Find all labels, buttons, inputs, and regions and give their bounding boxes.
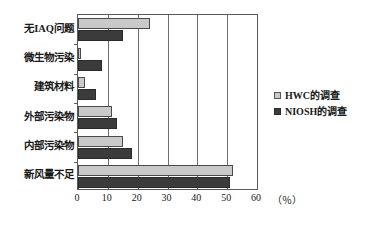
category-label: 建筑材料 — [6, 81, 74, 92]
x-tick-label: 20 — [132, 192, 142, 203]
category-label: 微生物污染 — [6, 52, 74, 63]
x-tick-label: 60 — [251, 192, 261, 203]
category-label: 外部污染物 — [6, 111, 74, 122]
y-tick-mark — [74, 103, 78, 104]
bar — [78, 30, 123, 41]
bar — [78, 136, 123, 147]
legend-label: HWC的调查 — [285, 90, 340, 101]
bar — [78, 106, 112, 117]
legend-item: HWC的调查 — [274, 88, 366, 102]
x-tick-label: 30 — [162, 192, 172, 203]
category-axis-labels: 无IAQ问题微生物污染建筑材料外部污染物内部污染物新风量不足 — [6, 14, 74, 190]
x-tick-label: 0 — [75, 192, 80, 203]
bar — [78, 165, 233, 176]
category-label: 无IAQ问题 — [6, 23, 74, 34]
bar-chart-figure: 无IAQ问题微生物污染建筑材料外部污染物内部污染物新风量不足 010203040… — [0, 0, 369, 228]
y-tick-mark — [74, 162, 78, 163]
category-label: 内部污染物 — [6, 140, 74, 151]
bar — [78, 118, 117, 129]
legend-label: NIOSH的调查 — [285, 106, 347, 117]
gridline — [227, 15, 228, 189]
legend-item: NIOSH的调查 — [274, 104, 366, 118]
bar — [78, 148, 132, 159]
x-axis-tick-labels: 0102030405060 — [77, 192, 258, 208]
y-tick-mark — [74, 44, 78, 45]
gridline — [138, 15, 139, 189]
x-tick-label: 40 — [191, 192, 201, 203]
bar — [78, 60, 102, 71]
x-tick-label: 50 — [221, 192, 231, 203]
bar — [78, 89, 96, 100]
plot-area — [77, 14, 258, 190]
bar — [78, 48, 81, 59]
chart-legend: HWC的调查NIOSH的调查 — [274, 88, 366, 120]
bar — [78, 77, 85, 88]
legend-swatch-hwc-icon — [274, 92, 281, 99]
x-axis-unit-label: （％） — [272, 192, 302, 207]
x-tick-mark — [257, 186, 258, 190]
gridline — [197, 15, 198, 189]
gridline — [168, 15, 169, 189]
x-tick-label: 10 — [102, 192, 112, 203]
bar — [78, 18, 150, 29]
category-label: 新风量不足 — [6, 169, 74, 180]
y-tick-mark — [74, 74, 78, 75]
legend-swatch-niosh-icon — [274, 108, 281, 115]
y-tick-mark — [74, 132, 78, 133]
bar — [78, 177, 230, 188]
